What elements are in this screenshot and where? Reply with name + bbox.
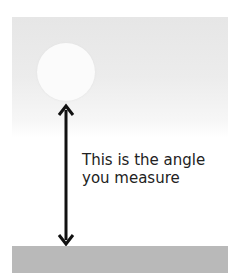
- label-line-2: you measure: [82, 169, 205, 187]
- ground-bar: [12, 246, 228, 273]
- double-arrow-icon: [0, 0, 234, 279]
- label-line-1: This is the angle: [82, 151, 205, 169]
- angle-label: This is the angle you measure: [82, 151, 205, 187]
